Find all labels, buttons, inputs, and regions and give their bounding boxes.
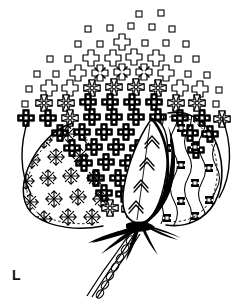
figure-root: L (0, 0, 251, 299)
plate-label: L (12, 268, 21, 282)
cotton-boll-illustration (0, 0, 251, 299)
